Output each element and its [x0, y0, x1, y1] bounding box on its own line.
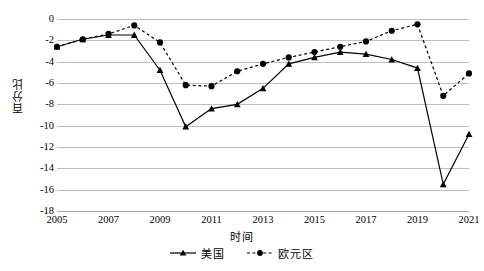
- y-axis-title: 百分比: [10, 78, 30, 114]
- circle-marker-icon: [466, 70, 472, 76]
- x-tick-label: 2021: [459, 214, 480, 225]
- gridline--18: [57, 211, 469, 212]
- y-tick-label: -8: [45, 99, 54, 109]
- legend-label-us: 美国: [201, 245, 225, 261]
- triangle-marker-icon: [466, 131, 473, 137]
- x-tick-label: 2009: [150, 214, 171, 225]
- legend-item-eurozone: 欧元区: [247, 245, 314, 261]
- x-tick-label: 2013: [253, 214, 274, 225]
- circle-marker-icon: [337, 44, 343, 50]
- circle-marker-icon: [286, 54, 292, 60]
- x-tick-label: 2019: [407, 214, 428, 225]
- y-tick-label: -12: [40, 142, 54, 152]
- legend-item-us: 美国: [170, 245, 225, 261]
- circle-marker-icon: [54, 44, 60, 50]
- series-line: [57, 35, 469, 184]
- chart-container: 百分比 0-2-4-6-8-10-12-14-16-18 20052007200…: [0, 0, 484, 271]
- y-tick-label: -6: [45, 78, 54, 88]
- circle-marker-icon: [440, 93, 446, 99]
- circle-marker-icon: [208, 83, 214, 89]
- circle-marker-icon: [105, 31, 111, 37]
- circle-marker-icon: [234, 68, 240, 74]
- legend-label-eurozone: 欧元区: [278, 245, 314, 261]
- x-tick-label: 2005: [47, 214, 68, 225]
- circle-marker-icon: [260, 61, 266, 67]
- y-tick-label: -2: [45, 35, 54, 45]
- triangle-marker-icon: [234, 101, 241, 107]
- y-tick-label: -14: [40, 163, 54, 173]
- y-tick-label: -4: [45, 57, 54, 67]
- x-tick-label: 2017: [356, 214, 377, 225]
- triangle-marker-icon: [440, 181, 447, 187]
- x-tick-label: 2011: [201, 214, 222, 225]
- circle-marker-icon: [183, 82, 189, 88]
- x-axis-title: 时间: [0, 228, 484, 244]
- circle-marker-icon: [131, 22, 137, 28]
- circle-marker-icon: [311, 49, 317, 55]
- y-axis-tick-labels: 0-2-4-6-8-10-12-14-16-18: [28, 14, 54, 214]
- circle-marker-icon: [80, 36, 86, 42]
- y-tick-label: -16: [40, 185, 54, 195]
- circle-marker-icon: [363, 38, 369, 44]
- series-us: [54, 32, 473, 188]
- triangle-marker-icon: [182, 123, 189, 129]
- circle-marker-icon: [157, 39, 163, 45]
- y-tick-label: -10: [40, 121, 54, 131]
- circle-marker-icon: [389, 28, 395, 34]
- series-layer: [57, 19, 469, 211]
- circle-marker-icon: [414, 21, 420, 27]
- dashed-line-icon: [247, 248, 273, 258]
- chart-legend: 美国 欧元区: [0, 245, 484, 261]
- x-tick-label: 2007: [98, 214, 119, 225]
- plot-area: [57, 19, 469, 211]
- x-tick-label: 2015: [304, 214, 325, 225]
- y-tick-label: 0: [49, 14, 54, 24]
- solid-line-icon: [170, 248, 196, 258]
